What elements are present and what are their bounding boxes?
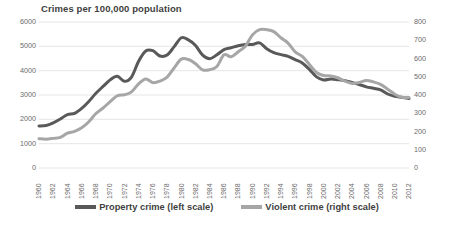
x-axis-tick: 1970 — [106, 183, 113, 199]
y-axis-right-tick: 200 — [414, 128, 450, 135]
y-axis-left-tick: 6000 — [0, 18, 36, 25]
x-axis-tick: 1962 — [49, 183, 56, 199]
x-axis-tick: 1960 — [35, 183, 42, 199]
legend-swatch-icon — [75, 205, 96, 209]
y-axis-left-tick: 5000 — [0, 42, 36, 49]
y-axis-right-tick: 300 — [414, 109, 450, 116]
x-axis-tick: 1964 — [64, 183, 71, 199]
series-lines — [39, 29, 409, 139]
x-axis-tick: 1984 — [206, 183, 213, 199]
series-line-property-crime — [39, 37, 409, 126]
y-axis-right-tick: 400 — [414, 91, 450, 98]
x-axis-tick: 1998 — [306, 183, 313, 199]
y-axis-left-tick: 4000 — [0, 67, 36, 74]
x-axis-labels: 1960196219641966196819701972197419761978… — [39, 171, 409, 199]
legend-swatch-icon — [241, 205, 262, 209]
x-axis-tick: 2008 — [377, 183, 384, 199]
x-axis-tick: 1994 — [277, 183, 284, 199]
x-axis-tick: 1986 — [220, 183, 227, 199]
x-axis-tick: 2010 — [391, 183, 398, 199]
series-line-violent-crime — [39, 29, 409, 139]
crime-rate-line-chart: Crimes per 100,000 population 1960196219… — [0, 0, 454, 233]
chart-legend: Property crime (left scale)Violent crime… — [0, 202, 454, 212]
x-axis-tick: 1968 — [92, 183, 99, 199]
y-axis-right-tick: 0 — [414, 164, 450, 171]
x-axis-tick: 2012 — [405, 183, 412, 199]
x-axis-tick: 2000 — [320, 183, 327, 199]
y-axis-right-tick: 600 — [414, 55, 450, 62]
x-axis-tick: 1988 — [234, 183, 241, 199]
x-axis-tick: 1974 — [135, 183, 142, 199]
y-axis-right-tick: 700 — [414, 36, 450, 43]
plot-svg — [39, 22, 409, 168]
y-axis-right-tick: 800 — [414, 18, 450, 25]
y-axis-right-tick: 100 — [414, 146, 450, 153]
x-axis-tick: 1978 — [163, 183, 170, 199]
x-axis-tick: 1976 — [149, 183, 156, 199]
x-axis-tick: 1996 — [291, 183, 298, 199]
legend-property-crime[interactable]: Property crime (left scale) — [75, 202, 213, 212]
x-axis-tick: 1972 — [121, 183, 128, 199]
y-axis-right-tick: 500 — [414, 73, 450, 80]
y-axis-left-tick: 3000 — [0, 91, 36, 98]
y-axis-left-tick: 2000 — [0, 115, 36, 122]
x-axis-tick: 2006 — [363, 183, 370, 199]
chart-title: Crimes per 100,000 population — [41, 3, 182, 14]
x-axis-tick: 1992 — [263, 183, 270, 199]
x-axis-tick: 2004 — [348, 183, 355, 199]
x-axis-tick: 2002 — [334, 183, 341, 199]
x-axis-tick: 1990 — [249, 183, 256, 199]
y-axis-left-tick: 1000 — [0, 140, 36, 147]
y-axis-left-tick: 0 — [0, 164, 36, 171]
legend-label: Violent crime (right scale) — [265, 202, 379, 212]
x-axis-tick: 1980 — [178, 183, 185, 199]
plot-area — [39, 22, 409, 168]
legend-violent-crime[interactable]: Violent crime (right scale) — [241, 202, 379, 212]
legend-label: Property crime (left scale) — [99, 202, 213, 212]
x-axis-tick: 1982 — [192, 183, 199, 199]
x-axis-tick: 1966 — [78, 183, 85, 199]
